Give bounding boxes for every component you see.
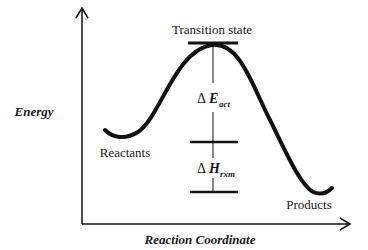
svg-text:act: act [219, 99, 230, 109]
products-label: Products [286, 197, 332, 212]
svg-text:E: E [208, 91, 218, 106]
y-axis-label: Energy [14, 104, 54, 119]
activation-energy-label: Δ E act [197, 91, 230, 109]
x-axis [82, 218, 350, 230]
x-axis-label: Reaction Coordinate [144, 232, 256, 247]
reaction-enthalpy-label: Δ H rxm [197, 161, 235, 179]
reactants-label: Reactants [100, 145, 151, 160]
svg-text:rxm: rxm [220, 169, 235, 179]
transition-state-label: Transition state [172, 22, 252, 37]
energy-diagram: Transition state Reactants Products Δ E … [0, 0, 368, 250]
y-axis [76, 8, 88, 224]
delta-symbol: Δ [197, 161, 206, 176]
delta-symbol: Δ [197, 91, 206, 106]
